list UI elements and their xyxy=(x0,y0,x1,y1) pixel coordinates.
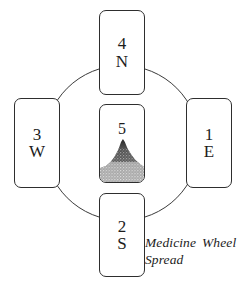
card-north-number: 4 xyxy=(118,35,127,52)
figure-caption: Medicine Wheel Spread xyxy=(145,234,245,269)
card-south-labels: 2 S xyxy=(117,218,127,253)
card-south-number: 2 xyxy=(118,218,127,235)
card-south-direction: S xyxy=(117,235,127,252)
caption-line-2: Spread xyxy=(145,251,245,268)
card-east-labels: 1 E xyxy=(204,126,215,161)
caption-line-1: Medicine Wheel xyxy=(145,234,245,251)
card-center-labels: 5 xyxy=(118,121,126,137)
card-north-labels: 4 N xyxy=(116,35,128,70)
card-center-number: 5 xyxy=(118,121,126,137)
card-south[interactable]: 2 S xyxy=(99,193,145,277)
card-east-number: 1 xyxy=(205,126,214,143)
card-east[interactable]: 1 E xyxy=(186,98,232,188)
card-north-direction: N xyxy=(116,53,128,70)
medicine-wheel-spread-figure: 4 N 3 W 1 E 2 S 5 xyxy=(0,0,247,287)
card-west-direction: W xyxy=(29,143,45,160)
card-north[interactable]: 4 N xyxy=(99,10,145,95)
card-west-number: 3 xyxy=(33,126,42,143)
card-west[interactable]: 3 W xyxy=(14,98,60,188)
card-center[interactable]: 5 xyxy=(99,104,145,183)
card-east-direction: E xyxy=(204,143,215,160)
card-west-labels: 3 W xyxy=(29,126,45,161)
